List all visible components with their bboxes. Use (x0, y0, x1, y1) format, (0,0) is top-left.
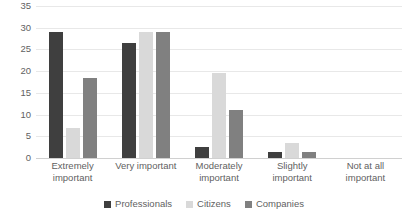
y-axis-tick: 30 (20, 23, 31, 33)
bar[interactable] (268, 152, 282, 159)
x-axis-label: Slightly important (256, 160, 329, 194)
y-axis-tick: 10 (20, 110, 31, 120)
bar[interactable] (122, 43, 136, 158)
y-axis-tick: 15 (20, 88, 31, 98)
bar-group (109, 6, 182, 158)
bar-group (182, 6, 255, 158)
legend-swatch-icon (245, 201, 252, 208)
bar-group (329, 6, 402, 158)
legend-item[interactable]: Companies (245, 199, 304, 209)
x-axis-label: Extremely important (36, 160, 109, 194)
legend-label: Citizens (197, 199, 231, 209)
y-axis-tick: 0 (26, 153, 31, 163)
bar[interactable] (83, 78, 97, 158)
plot-wrapper: 05101520253035 (0, 6, 408, 158)
x-axis-label: Moderately important (182, 160, 255, 194)
bar[interactable] (212, 73, 226, 158)
bar-group (256, 6, 329, 158)
y-axis-tick: 20 (20, 66, 31, 76)
bar[interactable] (229, 110, 243, 158)
x-axis-label: Very important (109, 160, 182, 194)
legend-item[interactable]: Citizens (186, 199, 231, 209)
legend-label: Companies (256, 199, 304, 209)
bar-group (36, 6, 109, 158)
y-axis-tick: 25 (20, 45, 31, 55)
y-axis-tick: 35 (20, 1, 31, 11)
x-axis-labels: Extremely importantVery importantModerat… (36, 160, 402, 194)
chart-legend: ProfessionalsCitizensCompanies (0, 197, 408, 211)
legend-item[interactable]: Professionals (104, 199, 172, 209)
legend-swatch-icon (186, 201, 193, 208)
bar[interactable] (302, 152, 316, 159)
legend-swatch-icon (104, 201, 111, 208)
bar[interactable] (195, 147, 209, 158)
y-axis-tick: 5 (26, 132, 31, 142)
bar[interactable] (49, 32, 63, 158)
x-axis-label: Not at all important (329, 160, 402, 194)
bar[interactable] (66, 128, 80, 158)
bar-chart: 05101520253035 Extremely importantVery i… (0, 0, 408, 218)
y-axis: 05101520253035 (0, 6, 36, 158)
bar[interactable] (139, 32, 153, 158)
bar-groups (36, 6, 402, 158)
bar[interactable] (156, 32, 170, 158)
bar[interactable] (285, 143, 299, 158)
legend-label: Professionals (115, 199, 172, 209)
plot-area (36, 6, 402, 158)
axis-baseline (36, 158, 402, 159)
